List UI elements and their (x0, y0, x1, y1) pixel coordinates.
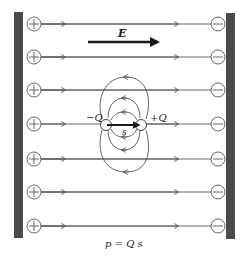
plus-charge-icon (27, 185, 41, 199)
minus-charge-icon (211, 50, 225, 64)
positive-charge-label: +Q (150, 112, 167, 123)
separation-label: s (122, 127, 127, 137)
minus-charge-icon (211, 219, 225, 233)
minus-charge-icon (211, 117, 225, 131)
plus-charge-icon (27, 50, 41, 64)
plus-charge-icon (27, 83, 41, 97)
negative-charges (211, 17, 225, 233)
left-plate-positive (14, 12, 23, 108)
right-plate-negative (226, 13, 235, 109)
plus-charge-icon (27, 219, 41, 233)
dipole-diagram: E −Q +Q s p = Q s (0, 0, 245, 261)
negative-charge-label: −Q (86, 112, 103, 123)
left-plate-positive-lower (14, 106, 23, 238)
minus-charge-icon (211, 17, 225, 31)
plus-charge-icon (27, 117, 41, 131)
minus-charge-icon (211, 185, 225, 199)
right-plate-negative-lower (226, 107, 235, 239)
plus-charge-icon (27, 152, 41, 166)
positive-charges (27, 17, 41, 233)
field-label: E (117, 27, 127, 40)
minus-charge-icon (211, 152, 225, 166)
minus-charge-icon (211, 83, 225, 97)
plus-charge-icon (27, 17, 41, 31)
dipole-moment-formula: p = Q s (105, 238, 143, 249)
